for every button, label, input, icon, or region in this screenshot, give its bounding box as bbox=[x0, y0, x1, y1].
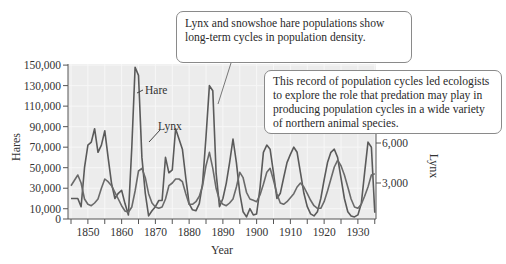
y-tick-label: 130,000 bbox=[24, 80, 62, 93]
x-tick-label: 1910 bbox=[279, 226, 302, 238]
y-axis-title-lynx: Lynx bbox=[427, 154, 441, 179]
x-tick-label: 1890 bbox=[211, 226, 234, 238]
y-tick-label: 50,000 bbox=[29, 162, 61, 175]
figure: 010,00030,00050,00070,00090,000110,00013… bbox=[0, 0, 506, 264]
hare-line-label: Hare bbox=[145, 84, 167, 96]
y-tick-label: 150,000 bbox=[24, 59, 62, 72]
callout-predation-role: This record of population cycles led eco… bbox=[264, 70, 502, 134]
y-tick-label: 110,000 bbox=[24, 100, 61, 113]
x-tick-label: 1920 bbox=[313, 226, 336, 238]
x-tick-label: 1930 bbox=[346, 226, 369, 238]
y-right-tick-label: 6,000 bbox=[382, 137, 408, 150]
x-tick-label: 1850 bbox=[76, 226, 99, 238]
y-tick-label: 10,000 bbox=[29, 203, 61, 216]
y-right-tick-label: 3,000 bbox=[382, 177, 408, 190]
x-tick-label: 1880 bbox=[178, 226, 201, 238]
lynx-line-label: Lynx bbox=[158, 120, 182, 133]
y-tick-label: 30,000 bbox=[29, 182, 61, 195]
x-tick-label: 1900 bbox=[245, 226, 268, 238]
y-tick-label: 0 bbox=[55, 213, 61, 225]
y-tick-label: 70,000 bbox=[29, 141, 61, 154]
y-axis-title-hares: Hares bbox=[9, 133, 23, 161]
y-tick-label: 90,000 bbox=[29, 121, 61, 134]
callout-long-term-cycles: Lynx and snowshoe hare populations show … bbox=[176, 11, 412, 63]
x-axis-title-year: Year bbox=[211, 243, 233, 257]
x-tick-label: 1860 bbox=[110, 226, 133, 238]
x-tick-label: 1870 bbox=[144, 226, 167, 238]
